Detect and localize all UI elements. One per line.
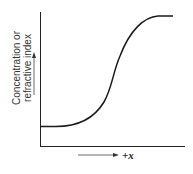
sigmoid-diagram: Concentration or refractive index +x: [0, 0, 193, 174]
y-axis-label-line1: Concentration or: [11, 30, 22, 105]
y-axis-label-line2: refractive index: [22, 34, 33, 102]
sigmoid-curve: [40, 16, 173, 127]
x-axis-label: +x: [122, 149, 134, 161]
x-arrow-head-icon: [113, 153, 119, 157]
